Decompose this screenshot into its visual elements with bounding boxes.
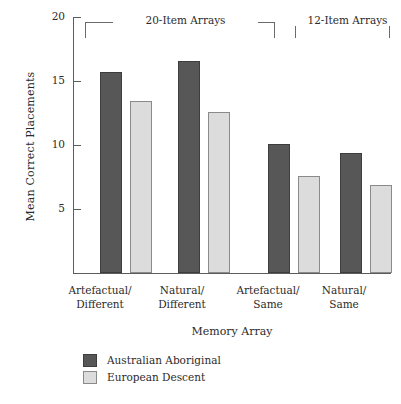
bar [268,144,290,273]
bar [178,61,200,273]
legend-label: Australian Aboriginal [107,354,221,366]
bar [298,176,320,273]
y-tick-label: 5 [25,203,65,214]
y-tick-label: 20 [25,11,65,22]
bar [340,153,362,273]
legend-swatch [83,371,97,384]
legend-swatch [83,354,97,367]
chart-legend: Australian AboriginalEuropean Descent [83,352,221,386]
bar [370,185,392,273]
plot-area [74,17,391,273]
bar [130,101,152,273]
legend-item: Australian Aboriginal [83,352,221,368]
y-tick-label: 10 [25,139,65,150]
bar [208,112,230,273]
x-category-label-line1: Natural/ [322,284,367,296]
x-axis-title: Memory Array [73,325,391,338]
bar-chart-figure: Mean Correct Placements 2015105 20-Item … [0,0,401,404]
legend-label: European Descent [107,371,205,383]
x-category-label-line1: Artefactual/ [236,284,299,296]
x-category-label-line1: Natural/ [160,284,205,296]
bar [100,72,122,273]
x-axis-line [73,273,391,274]
x-category-label-line1: Artefactual/ [68,284,131,296]
x-category-label: Natural/Same [292,284,396,311]
legend-item: European Descent [83,369,221,385]
y-tick-label: 15 [25,75,65,86]
x-category-label-line2: Same [292,298,396,312]
